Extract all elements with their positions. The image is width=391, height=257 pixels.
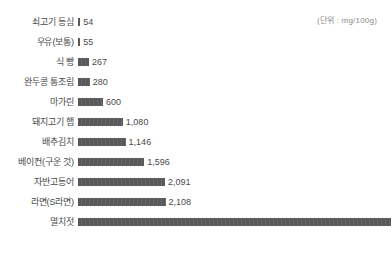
chart-row: 쇠고기 등심54	[0, 12, 391, 32]
category-label: 배추김치	[0, 132, 74, 152]
value-label: 55	[80, 32, 93, 52]
bar-area: 1,146	[78, 132, 391, 152]
bar-area: 12,8	[78, 212, 391, 232]
chart-row: 라면(S라면)2,108	[0, 192, 391, 212]
bar	[78, 218, 391, 226]
bar	[78, 178, 165, 186]
chart-row: 멸치젓12,8	[0, 212, 391, 232]
chart-caption	[0, 246, 391, 257]
category-label: 식 빵	[0, 52, 74, 72]
bar	[78, 58, 89, 66]
category-label: 쇠고기 등심	[0, 12, 74, 32]
chart-row: 자반고등어2,091	[0, 172, 391, 192]
bar	[78, 158, 144, 166]
bar-area: 54	[78, 12, 391, 32]
bar	[78, 198, 166, 206]
bar-area: 55	[78, 32, 391, 52]
bar	[78, 138, 126, 146]
chart-row: 돼지고기 햄1,080	[0, 112, 391, 132]
category-label: 라면(S라면)	[0, 192, 74, 212]
bar-area: 2,091	[78, 172, 391, 192]
chart-row: 마가린600	[0, 92, 391, 112]
value-label: 1,080	[123, 112, 149, 132]
category-label: 마가린	[0, 92, 74, 112]
value-label: 1,596	[144, 152, 170, 172]
value-label: 1,146	[126, 132, 152, 152]
category-label: 베이컨(구운 것)	[0, 152, 74, 172]
chart-row: 식 빵267	[0, 52, 391, 72]
bar-area: 280	[78, 72, 391, 92]
value-label: 267	[89, 52, 107, 72]
chart-row: 배추김치1,146	[0, 132, 391, 152]
chart-row: 완두콩 통조림280	[0, 72, 391, 92]
bar	[78, 78, 90, 86]
value-label: 2,091	[165, 172, 191, 192]
value-label: 280	[90, 72, 108, 92]
bar-area: 2,108	[78, 192, 391, 212]
bar-area: 1,080	[78, 112, 391, 132]
bar	[78, 98, 103, 106]
bar	[78, 118, 123, 126]
category-label: 자반고등어	[0, 172, 74, 192]
bar-area: 267	[78, 52, 391, 72]
category-label: 멸치젓	[0, 212, 74, 232]
value-label: 600	[103, 92, 121, 112]
value-label: 54	[80, 12, 93, 32]
chart-row: 베이컨(구운 것)1,596	[0, 152, 391, 172]
bar-area: 600	[78, 92, 391, 112]
category-label: 완두콩 통조림	[0, 72, 74, 92]
category-label: 돼지고기 햄	[0, 112, 74, 132]
sodium-content-bar-chart: (단위 : mg/100g) 쇠고기 등심54우유(보통)55식 빵267완두콩…	[0, 0, 391, 257]
chart-rows: 쇠고기 등심54우유(보통)55식 빵267완두콩 통조림280마가린600돼지…	[0, 12, 391, 232]
chart-row: 우유(보통)55	[0, 32, 391, 52]
value-label: 2,108	[166, 192, 192, 212]
category-label: 우유(보통)	[0, 32, 74, 52]
bar-area: 1,596	[78, 152, 391, 172]
